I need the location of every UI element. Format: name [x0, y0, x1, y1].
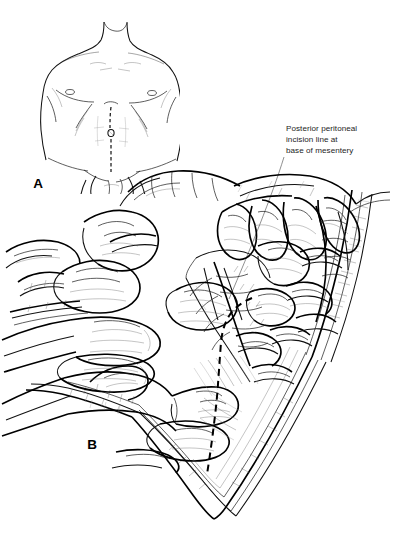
- panel-letter-a: A: [33, 176, 43, 191]
- panel-letter-b: B: [87, 437, 97, 452]
- annotation-line-3: base of mesentery: [286, 146, 354, 155]
- annotation-line-1: Posterior peritoneal: [286, 124, 357, 133]
- annotation-line-2: incision line at: [286, 135, 338, 144]
- illustration-canvas: A Posterior peritoneal incision line at …: [0, 0, 399, 542]
- surgical-illustration-figure: A Posterior peritoneal incision line at …: [0, 0, 399, 542]
